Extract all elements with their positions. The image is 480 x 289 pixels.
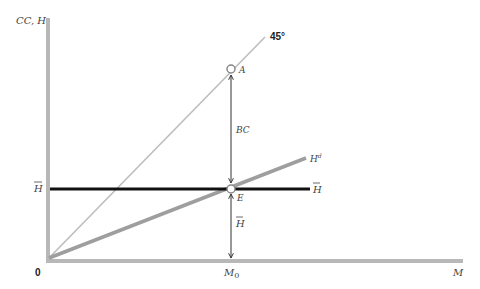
- label-bc: BC: [235, 125, 250, 135]
- line-hd: [49, 158, 306, 258]
- macro-diagram: CC, H M 0 M0 H 45° Hd H A E BC H: [0, 0, 480, 289]
- x-tick-m0: M0: [223, 267, 239, 280]
- svg-text:H: H: [33, 183, 43, 194]
- svg-text:H: H: [312, 184, 322, 195]
- point-e: [227, 185, 235, 193]
- svg-text:H: H: [235, 218, 245, 229]
- label-hd: Hd: [309, 152, 322, 164]
- y-tick-hbar: H: [33, 182, 43, 194]
- x-axis-label: M: [452, 267, 464, 278]
- label-45-degree: 45°: [270, 31, 285, 42]
- origin-label: 0: [35, 267, 41, 278]
- y-axis-label: CC, H: [16, 15, 46, 26]
- label-hbar-right: H: [312, 183, 322, 195]
- label-point-a: A: [238, 65, 246, 75]
- label-hbar-arrow: H: [235, 217, 245, 229]
- label-point-e: E: [236, 193, 244, 203]
- point-a: [227, 65, 235, 73]
